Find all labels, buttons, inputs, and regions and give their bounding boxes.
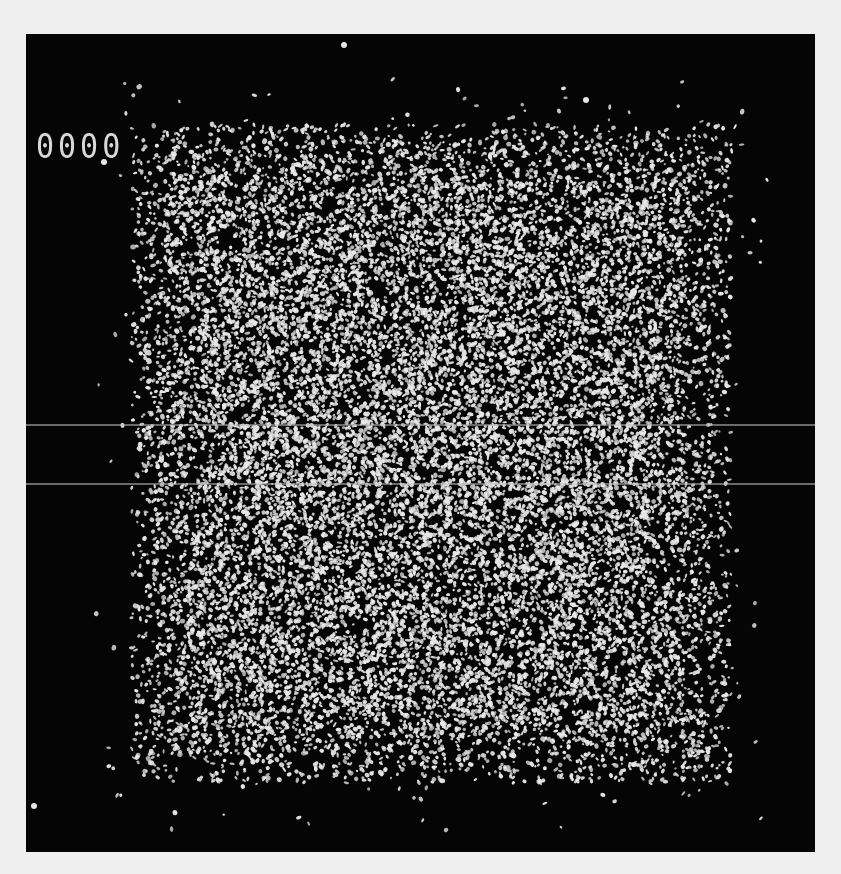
isolated-dot [31,803,37,809]
isolated-dot [583,97,589,103]
speckle-field [26,34,815,852]
frame-counter: 0000 [36,126,124,166]
scanline [26,483,815,485]
display-screen: 0000 [26,34,815,852]
photograph: 0000 [0,0,841,874]
isolated-dot [341,42,347,48]
scanline [26,424,815,426]
